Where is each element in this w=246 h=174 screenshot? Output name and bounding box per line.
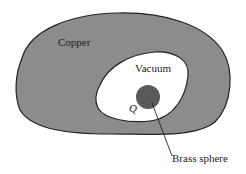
vacuum-label: Vacuum (135, 62, 171, 74)
copper-cavity-diagram: Copper Vacuum Q Brass sphere (0, 0, 246, 174)
charge-label: Q (129, 102, 137, 114)
sphere-label: Brass sphere (172, 152, 228, 164)
copper-label: Copper (58, 36, 91, 48)
brass-sphere (136, 85, 160, 109)
